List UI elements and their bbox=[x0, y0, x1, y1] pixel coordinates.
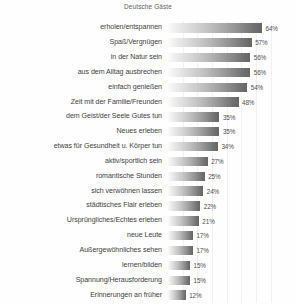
bar-chart: Deutsche Gäste erholen/entspannen64%Spaß… bbox=[0, 0, 296, 306]
bar-row: Spaß/Vergnügen57% bbox=[0, 36, 296, 51]
bar-value-label: 35% bbox=[223, 127, 235, 136]
category-label: Zeit mit der Familie/Freunden bbox=[71, 98, 162, 107]
category-label: etwas für Gesundheit u. Körper tun bbox=[54, 142, 162, 151]
bar-fill bbox=[168, 38, 252, 47]
bar-row: romantische Stunden25% bbox=[0, 169, 296, 184]
category-label: sich verwöhnen lassen bbox=[91, 187, 162, 196]
bar-fill bbox=[168, 216, 199, 225]
bar-fill bbox=[168, 276, 190, 285]
bar-value-label: 24% bbox=[207, 187, 219, 196]
category-label: dem Geist/der Seele Gutes tun bbox=[66, 112, 162, 121]
category-label: einfach genießen bbox=[108, 83, 162, 92]
bar-row: Zeit mit der Familie/Freunden48% bbox=[0, 95, 296, 110]
bar-fill bbox=[168, 112, 219, 121]
category-label: aktiv/sportlich sein bbox=[105, 157, 162, 166]
bar-fill bbox=[168, 231, 193, 240]
bar bbox=[168, 231, 193, 240]
bar-value-label: 56% bbox=[254, 68, 266, 77]
bar-row: lernen/bilden15% bbox=[0, 258, 296, 273]
bar-value-label: 48% bbox=[242, 98, 254, 107]
category-label: Ursprüngliches/Echtes erleben bbox=[67, 216, 162, 225]
bar-fill bbox=[168, 142, 218, 151]
bar-fill bbox=[168, 53, 250, 62]
bar bbox=[168, 186, 203, 195]
category-label: Erinnerungen an früher bbox=[90, 291, 162, 300]
bar-row: aus dem Alltag ausbrechen56% bbox=[0, 66, 296, 81]
bar bbox=[168, 23, 262, 32]
bar-fill bbox=[168, 186, 203, 195]
bar-value-label: 15% bbox=[194, 276, 206, 285]
bar-row: etwas für Gesundheit u. Körper tun34% bbox=[0, 140, 296, 155]
bar-value-label: 15% bbox=[194, 261, 206, 270]
bar-value-label: 34% bbox=[221, 142, 233, 151]
bar-fill bbox=[168, 97, 239, 106]
bar-fill bbox=[168, 290, 186, 299]
bar-row: sich verwöhnen lassen24% bbox=[0, 184, 296, 199]
bar bbox=[168, 38, 252, 47]
bar-value-label: 27% bbox=[211, 157, 223, 166]
bar bbox=[168, 157, 208, 166]
bar bbox=[168, 142, 218, 151]
category-label: in der Natur sein bbox=[111, 53, 162, 62]
bar-fill bbox=[168, 127, 219, 136]
bar bbox=[168, 112, 219, 121]
bar-row: neue Leute17% bbox=[0, 229, 296, 244]
bar-fill bbox=[168, 172, 205, 181]
category-label: Außergewöhnliches sehen bbox=[80, 246, 162, 255]
category-label: Spaß/Vergnügen bbox=[109, 38, 162, 47]
bar-value-label: 17% bbox=[196, 231, 208, 240]
bar-row: dem Geist/der Seele Gutes tun35% bbox=[0, 110, 296, 125]
bar-fill bbox=[168, 201, 200, 210]
bar-row: Neues erleben35% bbox=[0, 125, 296, 140]
bar-row: städtisches Flair erleben22% bbox=[0, 199, 296, 214]
category-label: erholen/entspannen bbox=[100, 23, 162, 32]
bar-row: in der Natur sein56% bbox=[0, 51, 296, 66]
chart-title: Deutsche Gäste bbox=[0, 3, 296, 10]
bar-value-label: 21% bbox=[202, 217, 214, 226]
bar bbox=[168, 83, 247, 92]
bar-value-label: 25% bbox=[208, 172, 220, 181]
category-label: Spannung/Herausforderung bbox=[76, 276, 162, 285]
bar-fill bbox=[168, 157, 208, 166]
bar-value-label: 54% bbox=[251, 83, 263, 92]
bar bbox=[168, 261, 190, 270]
category-label: Neues erleben bbox=[117, 127, 163, 136]
bar bbox=[168, 172, 205, 181]
bar-value-label: 17% bbox=[196, 246, 208, 255]
category-label: lernen/bilden bbox=[122, 261, 162, 270]
category-label: neue Leute bbox=[127, 231, 162, 240]
category-label: städtisches Flair erleben bbox=[86, 201, 162, 210]
bar-value-label: 12% bbox=[189, 291, 201, 300]
bar-fill bbox=[168, 23, 262, 32]
bar bbox=[168, 97, 239, 106]
bar bbox=[168, 276, 190, 285]
bar-row: Spannung/Herausforderung15% bbox=[0, 273, 296, 288]
bar-value-label: 56% bbox=[254, 53, 266, 62]
bar-fill bbox=[168, 68, 250, 77]
bar-row: Ursprüngliches/Echtes erleben21% bbox=[0, 214, 296, 229]
bar bbox=[168, 201, 200, 210]
bar-value-label: 35% bbox=[223, 113, 235, 122]
bar-fill bbox=[168, 246, 193, 255]
bar-fill bbox=[168, 261, 190, 270]
bar-value-label: 57% bbox=[255, 38, 267, 47]
bar-row: Erinnerungen an früher12% bbox=[0, 288, 296, 303]
bar-value-label: 64% bbox=[266, 24, 278, 33]
bar-value-label: 22% bbox=[204, 202, 216, 211]
bar-row: aktiv/sportlich sein27% bbox=[0, 155, 296, 170]
bar bbox=[168, 68, 250, 77]
bar bbox=[168, 127, 219, 136]
bar bbox=[168, 290, 186, 299]
category-label: romantische Stunden bbox=[96, 172, 162, 181]
bar-fill bbox=[168, 83, 247, 92]
bar-row: einfach genießen54% bbox=[0, 80, 296, 95]
category-label: aus dem Alltag ausbrechen bbox=[78, 68, 162, 77]
bar bbox=[168, 246, 193, 255]
bar bbox=[168, 216, 199, 225]
bar-rows: erholen/entspannen64%Spaß/Vergnügen57%in… bbox=[0, 21, 296, 303]
bar-row: Außergewöhnliches sehen17% bbox=[0, 244, 296, 259]
bar-row: erholen/entspannen64% bbox=[0, 21, 296, 36]
bar bbox=[168, 53, 250, 62]
